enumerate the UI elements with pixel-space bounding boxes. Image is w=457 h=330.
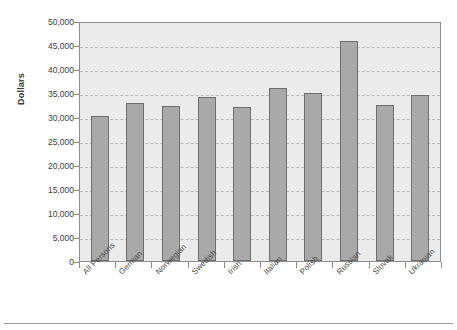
plot-area	[79, 22, 441, 262]
y-axis-tick-label: 35,000	[14, 89, 74, 99]
x-axis-tick-mark	[224, 262, 225, 268]
x-axis-tick-mark	[115, 262, 116, 268]
y-axis-tick-label: 20,000	[14, 161, 74, 171]
y-axis-tick-label: 45,000	[14, 41, 74, 51]
x-axis-tick-mark	[188, 262, 189, 268]
x-axis-tick-mark	[296, 262, 297, 268]
x-axis-tick-mark	[151, 262, 152, 268]
bar	[304, 93, 322, 261]
x-axis-tick-mark	[332, 262, 333, 268]
y-axis-tick-label: 50,000	[14, 17, 74, 27]
bottom-divider	[4, 323, 453, 324]
bar	[340, 41, 358, 261]
y-axis-tick-label: 40,000	[14, 65, 74, 75]
bar	[411, 95, 429, 261]
bar	[233, 107, 251, 261]
y-axis-tick-label: 30,000	[14, 113, 74, 123]
bar	[91, 116, 109, 261]
y-axis-tick-label: 15,000	[14, 185, 74, 195]
bar	[376, 105, 394, 261]
chart-figure: Dollars 05,00010,00015,00020,00025,00030…	[0, 0, 457, 330]
y-axis-tick-label: 10,000	[14, 209, 74, 219]
bar	[269, 88, 287, 261]
bar-series	[80, 23, 440, 261]
y-axis-tick-label: 5,000	[14, 233, 74, 243]
y-axis-tick-label: 25,000	[14, 137, 74, 147]
x-axis-tick-mark	[369, 262, 370, 268]
bar	[126, 103, 144, 261]
x-axis-tick-mark	[441, 262, 442, 268]
x-axis-tick-mark	[405, 262, 406, 268]
bar	[162, 106, 180, 261]
x-axis-tick-mark	[260, 262, 261, 268]
y-axis-tick-label: 0	[14, 257, 74, 267]
x-axis-tick-mark	[79, 262, 80, 268]
bar	[198, 97, 216, 261]
